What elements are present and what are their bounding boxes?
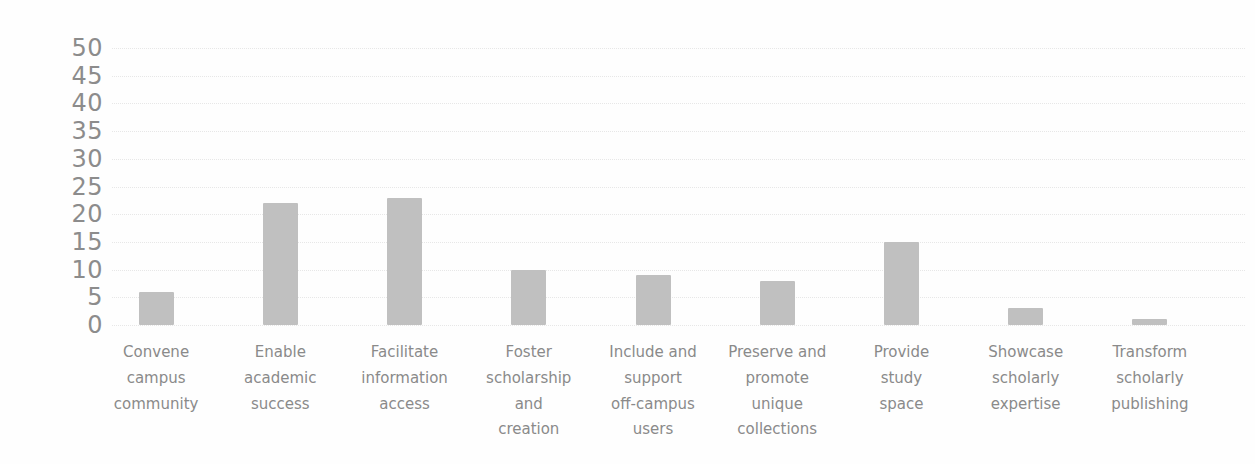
category-label: Transform scholarly publishing (1087, 340, 1213, 417)
gridline-30 (112, 159, 1245, 160)
y-axis-tick-label: 40 (0, 91, 103, 115)
y-axis-tick-label: 10 (0, 258, 103, 282)
bar (1008, 308, 1043, 325)
gridline-25 (112, 187, 1245, 188)
gridline-50 (112, 48, 1245, 49)
gridline-35 (112, 131, 1245, 132)
bar (884, 242, 919, 325)
category-label: Include and support off-campus users (590, 340, 716, 443)
y-axis-tick-label: 35 (0, 119, 103, 143)
gridline-0 (112, 325, 1245, 326)
y-axis-tick-label: 5 (0, 285, 103, 309)
category-label: Provide study space (838, 340, 964, 417)
plot-area: 05101520253035404550Convene campus commu… (0, 0, 1255, 464)
bar (387, 198, 422, 325)
category-label: Enable academic success (217, 340, 343, 417)
category-label: Showcase scholarly expertise (963, 340, 1089, 417)
bar-chart: 05101520253035404550Convene campus commu… (0, 0, 1255, 464)
bar (760, 281, 795, 325)
y-axis-tick-label: 0 (0, 313, 103, 337)
bar (636, 275, 671, 325)
gridline-45 (112, 76, 1245, 77)
y-axis-tick-label: 30 (0, 147, 103, 171)
gridline-40 (112, 103, 1245, 104)
category-label: Foster scholarship and creation (466, 340, 592, 443)
y-axis-tick-label: 20 (0, 202, 103, 226)
category-label: Convene campus community (93, 340, 219, 417)
category-label: Preserve and promote unique collections (714, 340, 840, 443)
y-axis-tick-label: 25 (0, 175, 103, 199)
y-axis-tick-label: 45 (0, 64, 103, 88)
y-axis-tick-label: 50 (0, 36, 103, 60)
y-axis-tick-label: 15 (0, 230, 103, 254)
bar (511, 270, 546, 325)
bar (139, 292, 174, 325)
bar (1132, 319, 1167, 325)
bar (263, 203, 298, 325)
category-label: Facilitate information access (342, 340, 468, 417)
